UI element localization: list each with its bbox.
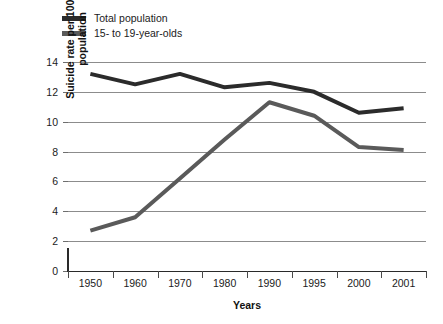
- x-axis-label-1995: 1995: [302, 277, 325, 289]
- legend-label-total-population: Total population: [94, 12, 168, 25]
- x-axis-label-1980: 1980: [213, 277, 236, 289]
- x-axis: Years 19501960197019801990199520002001: [68, 271, 426, 311]
- x-tick-7: [381, 271, 382, 278]
- x-axis-label-1970: 1970: [168, 277, 191, 289]
- chart-figure: Total population 15- to 19-year-olds 024…: [0, 0, 443, 324]
- x-tick-5: [292, 271, 293, 278]
- y-axis-label-0: 0: [52, 265, 58, 277]
- y-axis-label-8: 8: [52, 146, 58, 158]
- y-axis-label-14: 14: [46, 56, 58, 68]
- series-line-teens-15-19: [90, 102, 403, 230]
- x-axis-label-1950: 1950: [79, 277, 102, 289]
- series-line-total-population: [90, 74, 403, 113]
- x-tick-8: [426, 271, 427, 278]
- x-tick-0: [68, 271, 69, 278]
- x-axis-title: Years: [68, 299, 426, 311]
- y-axis-label-10: 10: [46, 116, 58, 128]
- legend-label-teens-15-19: 15- to 19-year-olds: [94, 27, 182, 40]
- x-axis-label-1990: 1990: [258, 277, 281, 289]
- x-tick-4: [247, 271, 248, 278]
- plot-area: 02468101214 Suicide rate per 100,000 pop…: [68, 56, 426, 271]
- y-axis-label-4: 4: [52, 205, 58, 217]
- y-axis-label-2: 2: [52, 235, 58, 247]
- figure-caption-partial: [0, 320, 443, 324]
- y-axis-label-6: 6: [52, 175, 58, 187]
- y-axis-label-12: 12: [46, 86, 58, 98]
- x-axis-label-2001: 2001: [392, 277, 415, 289]
- x-tick-2: [158, 271, 159, 278]
- x-axis-label-1960: 1960: [123, 277, 146, 289]
- x-tick-3: [202, 271, 203, 278]
- data-lines: [68, 56, 426, 271]
- x-tick-1: [113, 271, 114, 278]
- x-axis-label-2000: 2000: [347, 277, 370, 289]
- x-tick-6: [337, 271, 338, 278]
